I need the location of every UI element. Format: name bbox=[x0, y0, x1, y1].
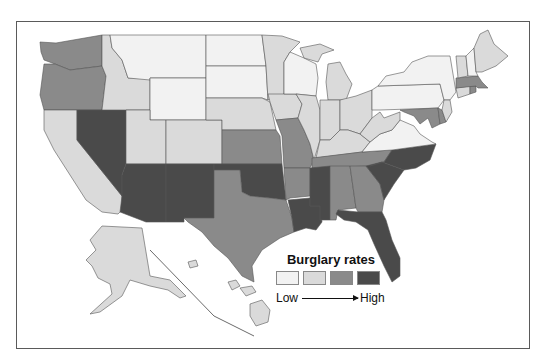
legend-high-label: High bbox=[360, 291, 385, 305]
state-nm bbox=[166, 164, 214, 222]
legend-swatch-2 bbox=[303, 271, 326, 285]
state-me bbox=[474, 30, 508, 72]
legend-title: Burglary rates bbox=[272, 252, 390, 267]
state-co bbox=[166, 120, 222, 164]
state-sd bbox=[206, 66, 268, 100]
state-az bbox=[120, 164, 166, 222]
state-or bbox=[40, 64, 106, 110]
arrow-right-icon bbox=[302, 298, 358, 299]
state-mi-lower bbox=[326, 62, 352, 100]
state-hi-islands bbox=[228, 280, 240, 290]
legend-low-label: Low bbox=[276, 291, 298, 305]
state-hi-islands bbox=[188, 260, 198, 268]
state-ri bbox=[470, 86, 476, 94]
legend: Burglary rates Low High bbox=[270, 252, 390, 305]
legend-swatch-1 bbox=[276, 271, 299, 285]
legend-swatch-3 bbox=[330, 271, 353, 285]
state-wy bbox=[150, 78, 206, 120]
state-ar bbox=[284, 168, 310, 200]
state-ks bbox=[222, 130, 282, 164]
state-ma bbox=[456, 76, 488, 88]
legend-swatch-4 bbox=[357, 271, 380, 285]
state-nd bbox=[206, 35, 266, 66]
state-pa bbox=[372, 84, 444, 110]
state-hi bbox=[250, 300, 270, 326]
us-map bbox=[0, 0, 538, 362]
legend-swatches bbox=[276, 271, 390, 285]
state-ak bbox=[86, 226, 186, 314]
state-hi-islands bbox=[240, 286, 256, 296]
legend-scale: Low High bbox=[276, 291, 390, 305]
